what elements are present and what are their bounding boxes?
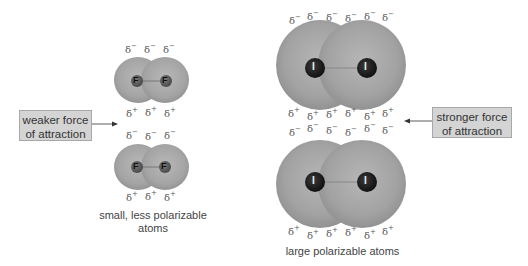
stronger-arrow-icon — [404, 119, 432, 124]
atom-label-f: F — [162, 75, 168, 85]
partial-charge-negative: δ− — [364, 10, 376, 22]
partial-charge-positive: δ+ — [164, 107, 176, 119]
partial-charge-negative: δ− — [125, 43, 137, 55]
partial-charge-positive: δ+ — [145, 190, 157, 202]
partial-charge-positive: δ+ — [326, 108, 338, 120]
partial-charge-negative: δ− — [382, 11, 394, 23]
partial-charge-positive: δ+ — [382, 225, 394, 237]
stronger-force-label-box: stronger force of attraction — [432, 107, 512, 138]
partial-charge-positive: δ+ — [126, 107, 138, 119]
atom-label-i: I — [312, 175, 315, 186]
weaker-arrow-icon — [91, 122, 118, 127]
atom-label-f: F — [161, 161, 167, 171]
partial-charge-negative: δ− — [326, 11, 338, 23]
partial-charge-negative: δ− — [289, 14, 301, 26]
partial-charge-positive: δ+ — [164, 191, 176, 203]
partial-charge-negative: δ− — [382, 124, 394, 136]
partial-charge-negative: δ− — [145, 130, 157, 142]
stronger-force-line1: stronger force — [433, 110, 511, 124]
partial-charge-negative: δ− — [164, 129, 176, 141]
stronger-force-line2: of attraction — [433, 124, 511, 138]
i2-molecule-top — [276, 20, 406, 110]
partial-charge-negative: δ− — [307, 10, 319, 22]
partial-charge-positive: δ+ — [382, 107, 394, 119]
partial-charge-positive: δ+ — [145, 106, 157, 118]
partial-charge-negative: δ− — [289, 126, 301, 138]
partial-charge-positive: δ+ — [345, 226, 357, 238]
partial-charge-positive: δ+ — [307, 229, 319, 241]
atom-label-f: F — [133, 75, 139, 85]
partial-charge-negative: δ− — [144, 43, 156, 55]
f2-molecule-top — [114, 57, 189, 103]
atom-label-f: F — [133, 161, 139, 171]
partial-charge-positive: δ+ — [288, 225, 300, 237]
partial-charge-positive: δ+ — [288, 107, 300, 119]
small-atoms-caption-line1: small, less polarizable — [92, 209, 214, 222]
atom-label-i: I — [364, 61, 367, 72]
i2-molecule-bottom — [276, 140, 406, 228]
weaker-force-line1: weaker force — [20, 113, 91, 127]
partial-charge-negative: δ− — [345, 126, 357, 138]
atom-label-i: I — [364, 175, 367, 186]
partial-charge-negative: δ− — [345, 12, 357, 24]
partial-charge-positive: δ+ — [126, 191, 138, 203]
partial-charge-positive: δ+ — [326, 227, 338, 239]
large-atoms-caption-line1: large polarizable atoms — [280, 245, 405, 258]
partial-charge-positive: δ+ — [364, 229, 376, 241]
small-atoms-caption: small, less polarizable atoms — [92, 209, 214, 235]
partial-charge-negative: δ− — [126, 129, 138, 141]
partial-charge-positive: δ+ — [345, 107, 357, 119]
large-atoms-caption: large polarizable atoms — [280, 245, 405, 258]
weaker-force-line2: of attraction — [20, 127, 91, 141]
weaker-force-label-box: weaker force of attraction — [19, 110, 92, 141]
f2-molecule-bottom — [114, 144, 189, 190]
partial-charge-negative: δ− — [163, 43, 175, 55]
atom-label-i: I — [312, 61, 315, 72]
partial-charge-negative: δ− — [326, 124, 338, 136]
partial-charge-negative: δ− — [307, 122, 319, 134]
small-atoms-caption-line2: atoms — [92, 222, 214, 235]
partial-charge-negative: δ− — [364, 122, 376, 134]
